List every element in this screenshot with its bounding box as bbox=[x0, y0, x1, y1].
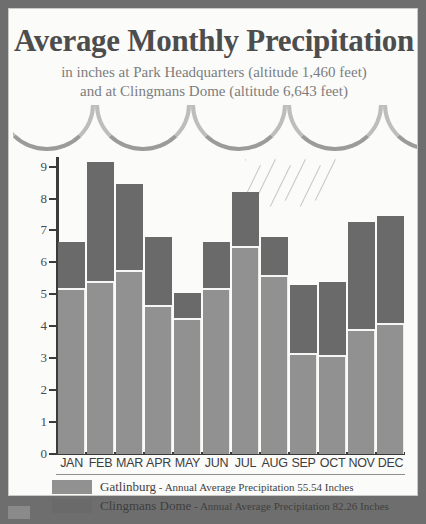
bar-segment-clingmans-dome[interactable] bbox=[377, 216, 404, 325]
x-axis-month-label: JAN bbox=[57, 456, 86, 470]
bar-segment-gatlinburg[interactable] bbox=[348, 331, 375, 454]
y-axis-label: 6 bbox=[27, 254, 47, 270]
legend-label: Gatlinburg - Annual Average Precipitatio… bbox=[100, 479, 354, 495]
y-axis-tick bbox=[49, 357, 56, 359]
y-axis-tick bbox=[49, 453, 56, 455]
x-axis-month-label: MAR bbox=[115, 456, 144, 470]
legend-swatch bbox=[52, 499, 92, 513]
legend-item[interactable]: Clingmans Dome - Annual Average Precipit… bbox=[52, 498, 402, 514]
y-axis-tick bbox=[49, 389, 56, 391]
bar-column[interactable] bbox=[289, 157, 318, 454]
cloud-arch-segment bbox=[95, 105, 191, 151]
bar-segment-gatlinburg[interactable] bbox=[290, 355, 317, 454]
bar-column[interactable] bbox=[318, 157, 347, 454]
page-subtitle: in inches at Park Headquarters (altitude… bbox=[9, 63, 419, 101]
bar-stack bbox=[290, 285, 317, 454]
x-axis-labels: JANFEBMARAPRMAYJUNJULAUGSEPOCTNOVDEC bbox=[57, 456, 405, 470]
y-axis-tick bbox=[49, 229, 56, 231]
legend-item[interactable]: Gatlinburg - Annual Average Precipitatio… bbox=[52, 479, 402, 495]
bar-segment-gatlinburg[interactable] bbox=[174, 320, 201, 454]
y-axis-label: 8 bbox=[27, 191, 47, 207]
bar-stack bbox=[87, 162, 114, 454]
x-axis-month-label: FEB bbox=[86, 456, 115, 470]
precipitation-bar-chart: 0123456789 JANFEBMARAPRMAYJUNJULAUGSEPOC… bbox=[27, 149, 409, 475]
y-axis-tick bbox=[49, 421, 56, 423]
x-axis-month-label: NOV bbox=[347, 456, 376, 470]
cloud-arch-segment bbox=[13, 105, 95, 151]
bar-stack bbox=[377, 216, 404, 454]
bar-column[interactable] bbox=[144, 157, 173, 454]
bar-stack bbox=[319, 282, 346, 454]
bar-segment-gatlinburg[interactable] bbox=[261, 277, 288, 454]
cloud-arch-segment bbox=[383, 105, 417, 151]
poster-background: Average Monthly Precipitation in inches … bbox=[0, 0, 426, 524]
x-axis-month-label: AUG bbox=[260, 456, 289, 470]
bar-segment-gatlinburg[interactable] bbox=[145, 307, 172, 454]
bar-segment-clingmans-dome[interactable] bbox=[203, 242, 230, 290]
x-axis-month-label: APR bbox=[144, 456, 173, 470]
y-axis-label: 2 bbox=[27, 382, 47, 398]
bar-segment-gatlinburg[interactable] bbox=[58, 290, 85, 454]
bar-segment-clingmans-dome[interactable] bbox=[145, 237, 172, 307]
subtitle-line-1: in inches at Park Headquarters (altitude… bbox=[9, 63, 419, 82]
y-axis-label: 3 bbox=[27, 350, 47, 366]
bar-column[interactable] bbox=[173, 157, 202, 454]
x-axis-month-label: DEC bbox=[376, 456, 405, 470]
bar-segment-gatlinburg[interactable] bbox=[87, 283, 114, 454]
y-axis-label: 5 bbox=[27, 286, 47, 302]
bar-group bbox=[57, 157, 405, 454]
bar-stack bbox=[116, 184, 143, 454]
legend-series-name: Gatlinburg bbox=[100, 479, 156, 494]
cloud-arch-icon bbox=[13, 105, 417, 153]
bar-column[interactable] bbox=[231, 157, 260, 454]
bar-column[interactable] bbox=[376, 157, 405, 454]
y-axis-tick bbox=[49, 325, 56, 327]
bar-segment-clingmans-dome[interactable] bbox=[87, 162, 114, 283]
x-axis-month-label: JUL bbox=[231, 456, 260, 470]
y-axis-tick bbox=[49, 198, 56, 200]
bar-column[interactable] bbox=[347, 157, 376, 454]
y-axis-tick bbox=[49, 261, 56, 263]
bar-segment-clingmans-dome[interactable] bbox=[58, 242, 85, 290]
x-axis-month-label: SEP bbox=[289, 456, 318, 470]
legend-series-name: Clingmans Dome bbox=[100, 498, 191, 513]
y-axis-label: 0 bbox=[27, 446, 47, 462]
bar-segment-clingmans-dome[interactable] bbox=[174, 293, 201, 320]
bar-segment-clingmans-dome[interactable] bbox=[319, 282, 346, 357]
bar-stack bbox=[348, 222, 375, 454]
bar-column[interactable] bbox=[115, 157, 144, 454]
bar-column[interactable] bbox=[202, 157, 231, 454]
bar-segment-gatlinburg[interactable] bbox=[203, 290, 230, 454]
subtitle-line-2: and at Clingmans Dome (altitude 6,643 fe… bbox=[9, 82, 419, 101]
bar-segment-gatlinburg[interactable] bbox=[377, 325, 404, 454]
bar-segment-clingmans-dome[interactable] bbox=[261, 237, 288, 277]
bar-segment-clingmans-dome[interactable] bbox=[290, 285, 317, 355]
chart-legend: Gatlinburg - Annual Average Precipitatio… bbox=[52, 479, 402, 517]
bar-segment-gatlinburg[interactable] bbox=[232, 248, 259, 454]
bar-segment-gatlinburg[interactable] bbox=[319, 357, 346, 454]
bar-stack bbox=[232, 192, 259, 454]
plot-area bbox=[57, 157, 405, 454]
poster-frame: Average Monthly Precipitation in inches … bbox=[8, 8, 418, 496]
corner-marker bbox=[8, 506, 30, 519]
page-title: Average Monthly Precipitation bbox=[9, 23, 419, 59]
bar-segment-clingmans-dome[interactable] bbox=[116, 184, 143, 272]
bar-segment-clingmans-dome[interactable] bbox=[348, 222, 375, 331]
y-axis-label: 7 bbox=[27, 222, 47, 238]
bar-segment-clingmans-dome[interactable] bbox=[232, 192, 259, 248]
bar-stack bbox=[145, 237, 172, 454]
cloud-arch-segment bbox=[191, 105, 287, 151]
x-axis-month-label: OCT bbox=[318, 456, 347, 470]
bar-segment-gatlinburg[interactable] bbox=[116, 272, 143, 454]
x-axis-month-label: JUN bbox=[202, 456, 231, 470]
cloud-arch-segment bbox=[287, 105, 383, 151]
y-axis-label: 1 bbox=[27, 414, 47, 430]
bar-stack bbox=[261, 237, 288, 454]
bar-column[interactable] bbox=[57, 157, 86, 454]
legend-label: Clingmans Dome - Annual Average Precipit… bbox=[100, 498, 389, 514]
y-axis-label: 9 bbox=[27, 159, 47, 175]
bar-stack bbox=[174, 293, 201, 454]
bar-column[interactable] bbox=[260, 157, 289, 454]
legend-series-detail: - Annual Average Precipitation 82.26 Inc… bbox=[191, 500, 388, 512]
bar-column[interactable] bbox=[86, 157, 115, 454]
